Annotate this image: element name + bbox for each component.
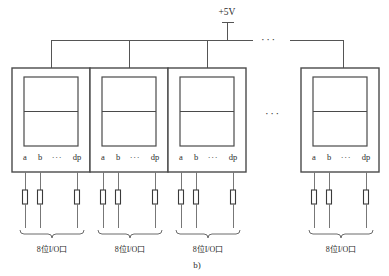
module-3-io-port-label: 8位I/O口 bbox=[193, 244, 224, 254]
module-2-io-port-label: 8位I/O口 bbox=[115, 244, 146, 254]
module-4-resistor-dp bbox=[364, 190, 369, 204]
module-2-pin-ellipsis: ··· bbox=[130, 152, 140, 162]
module-4-pin-label-dp: dp bbox=[362, 152, 371, 162]
module-2-pin-label-b: b bbox=[116, 152, 120, 162]
module-3-pin-label-dp: dp bbox=[229, 152, 238, 162]
module-3-io-brace bbox=[176, 230, 240, 238]
module-2-io-brace bbox=[98, 230, 162, 238]
module-1-pin-ellipsis: ··· bbox=[52, 152, 62, 162]
module-3-pin-label-a: a bbox=[179, 152, 183, 162]
module-2-resistor-b bbox=[116, 190, 121, 204]
module-1-pin-label-a: a bbox=[23, 152, 27, 162]
module-3-resistor-a bbox=[179, 190, 184, 204]
module-4-resistor-a bbox=[312, 190, 317, 204]
module-4-pin-label-a: a bbox=[312, 152, 316, 162]
module-2-resistor-dp bbox=[153, 190, 158, 204]
module-2-pin-label-a: a bbox=[101, 152, 105, 162]
module-4-io-port-label: 8位I/O口 bbox=[326, 244, 357, 254]
module-4-resistor-b bbox=[327, 190, 332, 204]
bus-drop-group bbox=[51, 40, 343, 68]
circuit-diagram: +5V ··· ··· a b ··· dp a b ··· dp a b ··… bbox=[0, 0, 389, 276]
module-1-pin-label-b: b bbox=[38, 152, 42, 162]
bus-ellipsis: ··· bbox=[261, 33, 277, 45]
module-1-io-brace bbox=[20, 230, 84, 238]
supply-voltage-label: +5V bbox=[219, 7, 236, 17]
module-1-pin-label-dp: dp bbox=[73, 152, 82, 162]
module-4-pin-ellipsis: ··· bbox=[341, 152, 351, 162]
module-2-pin-label-dp: dp bbox=[151, 152, 160, 162]
module-1-resistor-b bbox=[38, 190, 43, 204]
module-3-pin-label-b: b bbox=[194, 152, 198, 162]
module-1-io-port-label: 8位I/O口 bbox=[37, 244, 68, 254]
module-1-resistor-a bbox=[23, 190, 28, 204]
module-3-pin-ellipsis: ··· bbox=[208, 152, 218, 162]
module-4-pin-label-b: b bbox=[327, 152, 331, 162]
module-3-resistor-dp bbox=[231, 190, 236, 204]
module-3-resistor-b bbox=[194, 190, 199, 204]
power-supply-group bbox=[222, 22, 234, 40]
module-4-io-brace bbox=[309, 230, 373, 238]
figure-container: +5V ··· ··· a b ··· dp a b ··· dp a b ··… bbox=[0, 0, 389, 276]
module-1-resistor-dp bbox=[75, 190, 80, 204]
figure-caption: b) bbox=[193, 260, 201, 270]
module-gap-ellipsis: ··· bbox=[265, 107, 281, 119]
module-2-resistor-a bbox=[101, 190, 106, 204]
